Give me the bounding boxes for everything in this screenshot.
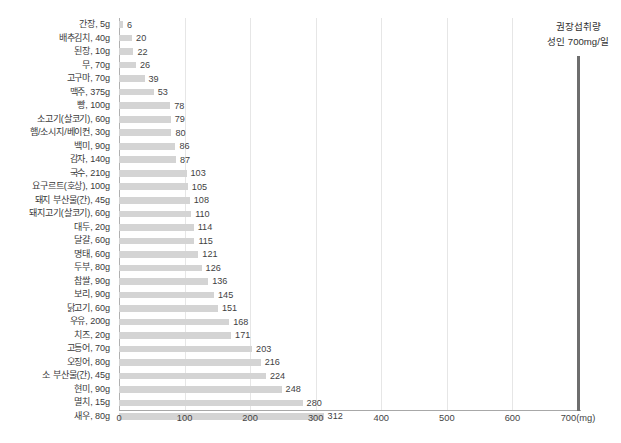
bar [119,400,303,407]
gridline [512,18,513,411]
x-tick-label: 700(mg) [561,413,596,423]
category-label: 현미, 90g [0,383,114,397]
x-tick-label: 100 [177,413,193,423]
bar-value-label: 115 [198,235,213,249]
bar [119,251,198,258]
bar [119,211,191,218]
bar-value-label: 87 [180,154,190,168]
x-tick-label: 600 [505,413,521,423]
recommended-intake-annotation: 권장섭취량 성인 700mg/일 [499,20,621,49]
category-label: 명태, 60g [0,248,114,262]
plot-area: 6202226395378798086871031051081101141151… [119,18,593,411]
bar [119,332,231,339]
bar-value-label: 280 [307,397,322,411]
category-label: 맥주, 375g [0,86,114,100]
bar [119,183,188,190]
category-label: 돼지고기(살코기), 60g [0,207,114,221]
gridline [316,18,317,411]
bar-value-label: 126 [206,262,221,276]
bar [119,21,123,28]
bar [119,116,171,123]
x-tick-label: 300 [308,413,324,423]
bar-value-label: 105 [192,181,207,195]
category-label: 감자, 140g [0,153,114,167]
category-axis-labels: 간장, 5g배추김치, 40g된장, 10g무, 70g고구마, 70g맥주, … [0,18,114,423]
bar [119,197,190,204]
bar [119,319,229,326]
bar-value-label: 110 [195,208,210,222]
category-label: 소 부산물(간), 45g [0,369,114,383]
category-label: 달걀, 60g [0,234,114,248]
bar [119,102,170,109]
category-label: 고등어, 70g [0,342,114,356]
x-tick-label: 500 [439,413,455,423]
bar [119,62,136,69]
bar [119,156,176,163]
x-tick-label: 0 [116,413,121,423]
category-label: 빵, 100g [0,99,114,113]
bar-value-label: 224 [270,370,285,384]
category-label: 국수, 210g [0,167,114,181]
bar [119,48,133,55]
category-label: 찹쌀, 90g [0,275,114,289]
bar-value-label: 86 [179,140,189,154]
bar [119,346,252,353]
category-label: 백미, 90g [0,140,114,154]
bar [119,170,187,177]
category-label: 햄/소시지/베이컨, 30g [0,126,114,140]
bar-value-label: 203 [256,343,271,357]
category-label: 오징어, 80g [0,356,114,370]
category-label: 소고기(살코기), 60g [0,113,114,127]
x-axis-tick-labels: 0100200300400500600700(mg) [0,413,621,431]
category-label: 대두, 20g [0,221,114,235]
gridline [381,18,382,411]
bar-value-label: 145 [218,289,233,303]
bar-value-label: 103 [191,167,206,181]
category-label: 된장, 10g [0,45,114,59]
bar-value-label: 79 [175,113,185,127]
bar-value-label: 171 [235,329,250,343]
bar [119,386,282,393]
gridline [447,18,448,411]
category-label: 우유, 200g [0,315,114,329]
category-label: 치즈, 20g [0,329,114,343]
bar-value-label: 136 [212,275,227,289]
bar [119,75,145,82]
category-label: 요구르트(호상), 100g [0,180,114,194]
bar [119,89,154,96]
category-label: 닭고기, 60g [0,302,114,316]
bar-value-label: 20 [136,32,146,46]
category-label: 고구마, 70g [0,72,114,86]
x-tick-label: 400 [374,413,390,423]
recommended-intake-line [577,56,580,411]
category-label: 배추김치, 40g [0,32,114,46]
bar-value-label: 121 [202,248,217,262]
category-label: 무, 70g [0,59,114,73]
category-label: 간장, 5g [0,18,114,32]
bar [119,359,261,366]
bar [119,35,132,42]
x-axis-line [119,410,581,411]
recommended-intake-value: 성인 700mg/일 [499,35,621,50]
x-tick-label: 200 [242,413,258,423]
bar [119,292,214,299]
category-label: 두부, 80g [0,261,114,275]
bar-value-label: 26 [140,59,150,73]
recommended-intake-title: 권장섭취량 [499,20,621,35]
category-label: 멸치, 15g [0,396,114,410]
bar-value-label: 80 [175,127,185,141]
bar-value-label: 39 [149,73,159,87]
bar [119,238,194,245]
bar-value-label: 78 [174,100,184,114]
bar [119,305,218,312]
bar-value-label: 108 [194,194,209,208]
bar [119,265,202,272]
bar-value-label: 114 [198,221,213,235]
bar [119,224,194,231]
bar-value-label: 53 [158,86,168,100]
bar-value-label: 248 [286,383,301,397]
bar [119,143,175,150]
bar-value-label: 22 [137,46,147,60]
category-label: 보리, 90g [0,288,114,302]
bar [119,278,208,285]
